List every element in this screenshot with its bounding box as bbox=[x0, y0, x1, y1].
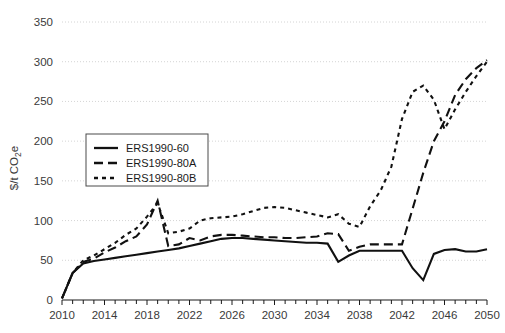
x-tick-label: 2050 bbox=[474, 309, 500, 321]
x-axis-tick-labels: 2010201420182022202620302034203820422046… bbox=[49, 309, 500, 321]
y-tick-label: 250 bbox=[34, 95, 53, 107]
legend-label-ers1990-80b: ERS1990-80B bbox=[126, 172, 196, 184]
legend-label-ers1990-80a: ERS1990-80A bbox=[126, 157, 197, 169]
y-tick-label: 0 bbox=[47, 294, 53, 306]
chart-legend: ERS1990-60ERS1990-80AERS1990-80B bbox=[86, 134, 208, 186]
line-chart: 050100150200250300350 201020142018202220… bbox=[0, 0, 505, 333]
chart-background bbox=[0, 0, 505, 333]
x-tick-label: 2034 bbox=[304, 309, 330, 321]
y-tick-label: 100 bbox=[34, 215, 53, 227]
y-tick-label: 200 bbox=[34, 135, 53, 147]
x-tick-label: 2046 bbox=[432, 309, 458, 321]
x-tick-label: 2022 bbox=[177, 309, 203, 321]
chart-container: 050100150200250300350 201020142018202220… bbox=[0, 0, 505, 333]
y-tick-label: 150 bbox=[34, 175, 53, 187]
x-tick-label: 2026 bbox=[219, 309, 245, 321]
x-tick-label: 2014 bbox=[92, 309, 118, 321]
y-tick-label: 50 bbox=[40, 254, 53, 266]
y-tick-label: 350 bbox=[34, 16, 53, 28]
x-tick-label: 2010 bbox=[49, 309, 75, 321]
x-tick-label: 2038 bbox=[347, 309, 373, 321]
y-tick-label: 300 bbox=[34, 56, 53, 68]
legend-label-ers1990-60: ERS1990-60 bbox=[126, 142, 189, 154]
x-tick-label: 2030 bbox=[262, 309, 288, 321]
x-tick-label: 2042 bbox=[389, 309, 415, 321]
x-tick-label: 2018 bbox=[134, 309, 160, 321]
